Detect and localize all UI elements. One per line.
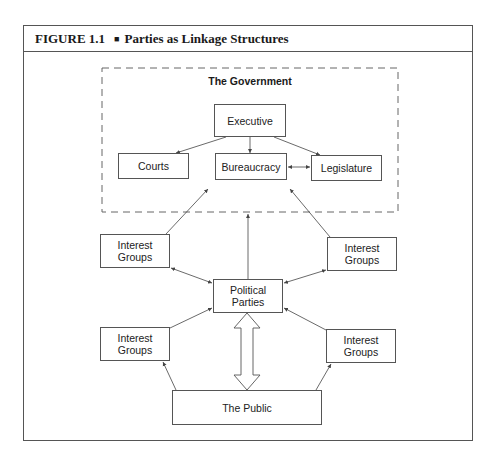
- interest-groups-upper-left-box: Interest Groups: [100, 234, 170, 268]
- executive-box: Executive: [214, 104, 286, 137]
- arrow-ig-upper-right-government: [290, 189, 330, 237]
- the-public-box: The Public: [172, 390, 322, 425]
- interest-groups-lower-right-box: Interest Groups: [326, 329, 396, 363]
- bureaucracy-box: Bureaucracy: [215, 153, 287, 180]
- interest-groups-upper-right-box: Interest Groups: [327, 237, 397, 271]
- arrow-ig-lower-left-parties: [170, 308, 212, 328]
- political-parties-box: Political Parties: [213, 279, 283, 313]
- courts-box: Courts: [118, 153, 189, 179]
- arrow-executive-courts: [176, 137, 226, 153]
- interest-groups-lower-left-box: Interest Groups: [100, 327, 170, 361]
- arrow-ig-upper-left-parties: [171, 268, 212, 283]
- arrow-ig-lower-right-parties: [284, 308, 326, 330]
- arrow-public-ig-lower-left: [163, 362, 176, 390]
- legislature-box: Legislature: [311, 155, 382, 181]
- double-arrow-parties-public: [234, 313, 260, 390]
- government-label: The Government: [200, 75, 300, 87]
- arrow-ig-upper-right-parties: [284, 270, 326, 283]
- arrow-public-ig-lower-right: [316, 364, 331, 390]
